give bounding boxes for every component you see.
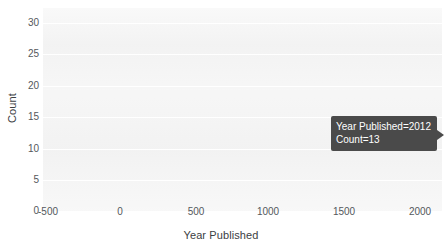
plot-area[interactable] — [43, 8, 442, 212]
bars-layer[interactable] — [43, 8, 442, 212]
hover-tooltip: Year Published=2012 Count=13 — [331, 116, 437, 151]
y-tick-10: 10 — [3, 144, 39, 154]
x-axis-title: Year Published — [0, 229, 442, 241]
y-tick-5: 5 — [3, 175, 39, 185]
x-tick-0: 0 — [117, 207, 123, 217]
x-tick-1500: 1500 — [333, 207, 355, 217]
x-tick-1000: 1000 — [257, 207, 279, 217]
y-tick-25: 25 — [3, 49, 39, 59]
tooltip-pointer-icon — [437, 130, 444, 140]
x-axis-ticks: -500 0 500 1000 1500 2000 — [0, 207, 442, 221]
y-tick-30: 30 — [3, 18, 39, 28]
tooltip-line-count: Count=13 — [336, 133, 431, 146]
tooltip-line-year: Year Published=2012 — [336, 120, 431, 133]
x-tick-2000: 2000 — [409, 207, 431, 217]
x-tick-500: 500 — [188, 207, 205, 217]
x-tick-neg500: -500 — [38, 207, 58, 217]
y-axis-title: Count — [6, 78, 18, 138]
